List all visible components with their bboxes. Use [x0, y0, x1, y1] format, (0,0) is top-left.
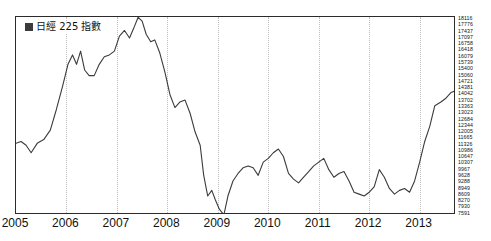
- y-tick-label: 17437: [458, 29, 491, 34]
- x-tick-label-2006: 2006: [52, 216, 79, 230]
- y-tick-label: 14042: [458, 91, 491, 96]
- y-tick-label: 10307: [458, 160, 491, 165]
- x-tick-label-2007: 2007: [103, 216, 130, 230]
- x-tick-label-2009: 2009: [203, 216, 230, 230]
- legend: 日經 225 指數: [22, 21, 104, 33]
- x-tick-label-2005: 2005: [2, 216, 29, 230]
- x-axis-tick-labels: 200520062007200820092010201120122013: [0, 216, 491, 236]
- x-tick-label-2010: 2010: [254, 216, 281, 230]
- x-tick-label-2008: 2008: [153, 216, 180, 230]
- legend-label: 日經 225 指數: [36, 22, 101, 32]
- y-tick-label: 16418: [458, 47, 491, 52]
- filled-square-icon: [25, 23, 33, 31]
- y-tick-label: 12684: [458, 117, 491, 122]
- cut-off-header-text: [0, 0, 491, 12]
- y-tick-label: 7930: [458, 204, 491, 209]
- plot-area: 日經 225 指數: [15, 16, 455, 214]
- x-tick-label-2011: 2011: [305, 216, 331, 230]
- y-tick-label: 15400: [458, 66, 491, 71]
- chart-screenshot: 日經 225 指數 181161777617437170971675816418…: [0, 0, 491, 241]
- y-tick-label: 17776: [458, 22, 491, 27]
- line-series-nikkei-225: [16, 17, 455, 214]
- x-tick-label-2013: 2013: [405, 216, 432, 230]
- y-axis-tick-labels: 1811617776174371709716758164181607915739…: [458, 16, 491, 216]
- y-tick-label: 13023: [458, 110, 491, 115]
- y-tick-label: 15060: [458, 73, 491, 78]
- y-tick-label: 11665: [458, 135, 491, 140]
- x-tick-label-2012: 2012: [355, 216, 382, 230]
- y-tick-label: 9288: [458, 179, 491, 184]
